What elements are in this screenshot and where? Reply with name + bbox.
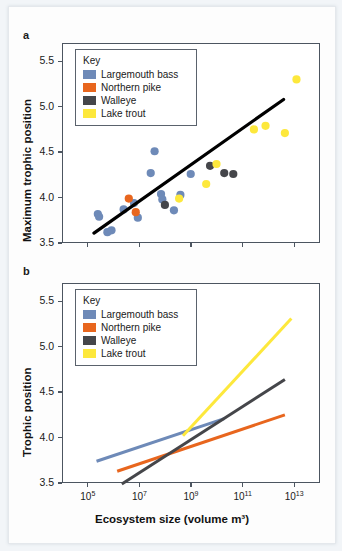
x-tick-mark: [294, 483, 295, 487]
x-tick-mark: [190, 243, 191, 247]
y-tick-mark: [58, 346, 62, 347]
y-tick-label: 5.5: [22, 294, 54, 306]
legend-item-largemouth-bass: Largemouth bass: [83, 68, 189, 81]
legend-swatch-lake-trout: [83, 109, 96, 118]
y-tick-label: 3.5: [22, 236, 54, 248]
legend-item-walleye-b: Walleye: [83, 334, 189, 347]
x-tick-mark: [87, 483, 88, 487]
legend-item-lake-trout-b: Lake trout: [83, 347, 189, 360]
x-tick-mark: [242, 243, 243, 247]
scatter-point: [161, 201, 169, 209]
x-tick-label: 1013: [274, 490, 314, 502]
legend-label-walleye-b: Walleye: [101, 335, 136, 346]
legend-item-walleye: Walleye: [83, 94, 189, 107]
scatter-point: [107, 226, 115, 234]
panel-b-y-axis-title: Trophic position: [21, 368, 33, 457]
y-tick-label: 4.5: [22, 385, 54, 397]
y-tick-label: 4.0: [22, 431, 54, 443]
panel-a-y-axis-title: Maximum trophic position: [21, 99, 33, 242]
legend-swatch-northern-pike: [83, 83, 96, 92]
x-tick-mark: [139, 483, 140, 487]
y-tick-mark: [58, 301, 62, 302]
x-tick-label: 109: [171, 490, 211, 502]
scatter-point: [292, 75, 300, 83]
y-tick-label: 4.0: [22, 191, 54, 203]
y-tick-mark: [58, 242, 62, 243]
legend-title: Key: [83, 55, 189, 66]
x-tick-label: 1011: [223, 490, 263, 502]
scatter-point: [150, 147, 158, 155]
scatter-point: [261, 122, 269, 130]
panel-a-letter: a: [23, 29, 29, 41]
regression-line: [117, 415, 285, 471]
x-tick-mark: [190, 483, 191, 487]
panel-b-letter: b: [23, 265, 30, 277]
legend-label-lake-trout: Lake trout: [101, 108, 145, 119]
legend-swatch-northern-pike-b: [83, 323, 96, 332]
scatter-point: [125, 194, 133, 202]
x-tick-mark: [87, 243, 88, 247]
legend-swatch-lake-trout-b: [83, 349, 96, 358]
scatter-point: [187, 170, 195, 178]
scatter-point: [212, 160, 220, 168]
x-tick-mark: [242, 483, 243, 487]
x-tick-label: 105: [68, 490, 108, 502]
figure-container: a Maximum trophic position 3.54.04.55.05…: [0, 0, 342, 551]
scatter-point: [202, 180, 210, 188]
legend-label-northern-pike-b: Northern pike: [101, 322, 161, 333]
scatter-point: [220, 169, 228, 177]
legend-swatch-largemouth-bass: [83, 70, 96, 79]
y-tick-mark: [58, 106, 62, 107]
legend-item-lake-trout: Lake trout: [83, 107, 189, 120]
legend-item-northern-pike: Northern pike: [83, 81, 189, 94]
y-tick-mark: [58, 482, 62, 483]
panel-b-x-axis-title: Ecosystem size (volume m³): [9, 513, 335, 525]
legend-swatch-largemouth-bass-b: [83, 310, 96, 319]
y-tick-mark: [58, 197, 62, 198]
scatter-point: [250, 125, 258, 133]
x-tick-mark: [294, 243, 295, 247]
y-tick-label: 3.5: [22, 476, 54, 488]
scatter-point: [132, 208, 140, 216]
scatter-point: [281, 129, 289, 137]
panel-b-legend: Key Largemouth bass Northern pike Walley…: [75, 289, 197, 366]
legend-label-lake-trout-b: Lake trout: [101, 348, 145, 359]
scatter-point: [95, 213, 103, 221]
y-tick-label: 5.0: [22, 340, 54, 352]
x-tick-mark: [139, 243, 140, 247]
panel-a-legend: Key Largemouth bass Northern pike Walley…: [75, 49, 197, 126]
y-tick-mark: [58, 391, 62, 392]
scatter-point: [229, 170, 237, 178]
legend-item-northern-pike-b: Northern pike: [83, 321, 189, 334]
scatter-point: [175, 194, 183, 202]
regression-line: [122, 379, 285, 484]
legend-label-largemouth-bass-b: Largemouth bass: [101, 309, 178, 320]
legend-label-largemouth-bass: Largemouth bass: [101, 69, 178, 80]
scatter-point: [147, 169, 155, 177]
y-tick-mark: [58, 151, 62, 152]
y-tick-mark: [58, 437, 62, 438]
legend-title-b: Key: [83, 295, 189, 306]
x-tick-label: 107: [119, 490, 159, 502]
y-tick-label: 5.0: [22, 100, 54, 112]
legend-label-walleye: Walleye: [101, 95, 136, 106]
y-tick-mark: [58, 61, 62, 62]
legend-swatch-walleye: [83, 96, 96, 105]
legend-label-northern-pike: Northern pike: [101, 82, 161, 93]
legend-swatch-walleye-b: [83, 336, 96, 345]
figure-page: a Maximum trophic position 3.54.04.55.05…: [8, 6, 336, 544]
regression-line: [97, 419, 225, 462]
legend-item-largemouth-bass-b: Largemouth bass: [83, 308, 189, 321]
y-tick-label: 5.5: [22, 54, 54, 66]
scatter-point: [170, 206, 178, 214]
y-tick-label: 4.5: [22, 145, 54, 157]
